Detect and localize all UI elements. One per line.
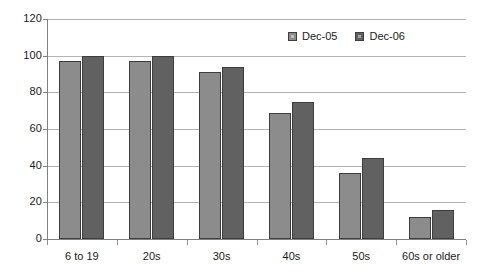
bar[interactable] (292, 102, 314, 240)
gridline (47, 19, 466, 20)
gridline (47, 202, 466, 203)
bar[interactable] (82, 56, 104, 239)
legend-label: Dec-06 (369, 31, 404, 42)
y-tick-mark (43, 129, 48, 130)
gridline (47, 92, 466, 93)
y-tick-mark (43, 19, 48, 20)
legend-swatch-icon (355, 32, 364, 41)
legend-label: Dec-05 (302, 31, 337, 42)
x-tick-label: 6 to 19 (47, 250, 117, 262)
bar[interactable] (269, 113, 291, 240)
x-tick-mark (47, 240, 48, 245)
x-tick-mark (257, 240, 258, 245)
legend-entry[interactable]: Dec-06 (355, 31, 404, 42)
x-tick-label: 30s (187, 250, 257, 262)
x-tick-mark (466, 240, 467, 245)
y-tick-mark (43, 202, 48, 203)
x-tick-label: 60s or older (396, 250, 466, 262)
bar[interactable] (152, 56, 174, 239)
gridline (47, 166, 466, 167)
gridline (47, 56, 466, 57)
x-tick-mark (117, 240, 118, 245)
bar-group (129, 19, 174, 239)
x-tick-label: 20s (117, 250, 187, 262)
gridline (47, 129, 466, 130)
y-tick-label: 120 (4, 13, 42, 24)
bar-chart: 120100806040200 Dec-05Dec-06 6 to 1920s3… (0, 0, 489, 277)
y-axis: 120100806040200 (0, 0, 42, 277)
legend-entry[interactable]: Dec-05 (288, 31, 337, 42)
bar[interactable] (59, 61, 81, 239)
y-tick-label: 60 (4, 123, 42, 134)
bar-group (269, 19, 314, 239)
x-tick-label: 50s (326, 250, 396, 262)
bar-group (199, 19, 244, 239)
plot-area (47, 19, 466, 239)
y-tick-label: 100 (4, 50, 42, 61)
chart-legend: Dec-05Dec-06 (288, 31, 405, 42)
x-tick-label: 40s (257, 250, 327, 262)
bar[interactable] (362, 158, 384, 239)
y-tick-mark (43, 166, 48, 167)
bar-group (409, 19, 454, 239)
bar[interactable] (222, 67, 244, 239)
y-tick-label: 80 (4, 86, 42, 97)
bar[interactable] (339, 173, 361, 239)
y-tick-label: 40 (4, 160, 42, 171)
x-tick-mark (396, 240, 397, 245)
x-tick-mark (326, 240, 327, 245)
y-tick-mark (43, 56, 48, 57)
y-tick-label: 20 (4, 196, 42, 207)
x-tick-mark (187, 240, 188, 245)
y-tick-label: 0 (4, 233, 42, 244)
bar[interactable] (129, 61, 151, 239)
y-tick-mark (43, 92, 48, 93)
bar[interactable] (409, 217, 431, 239)
bar-group (339, 19, 384, 239)
legend-swatch-icon (288, 32, 297, 41)
bar-group (59, 19, 104, 239)
bar[interactable] (432, 210, 454, 239)
bar[interactable] (199, 72, 221, 239)
